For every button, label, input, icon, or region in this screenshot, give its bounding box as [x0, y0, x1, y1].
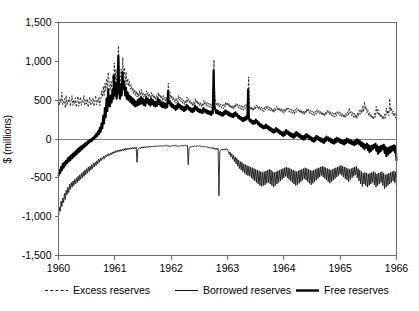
y-tick-label: 500: [34, 94, 52, 106]
x-tick-label: 1962: [159, 262, 183, 274]
chart-legend: Excess reservesBorrowed reservesFree res…: [45, 284, 389, 296]
x-tick-label: 1960: [47, 262, 71, 274]
reserves-line-chart: 1,5001,0005000-500-1,000-1,500 196019611…: [0, 0, 419, 311]
y-tick-label: 1,000: [25, 55, 51, 67]
legend-label-free-reserves: Free reserves: [324, 284, 389, 296]
chart-container: 1,5001,0005000-500-1,000-1,500 196019611…: [0, 0, 419, 311]
x-tick-label: 1966: [385, 262, 409, 274]
x-tick-label: 1965: [328, 262, 352, 274]
x-tick-label: 1964: [272, 262, 296, 274]
x-tick-label: 1961: [103, 262, 127, 274]
y-tick-label: -1,500: [22, 249, 52, 261]
x-tick-label: 1963: [216, 262, 240, 274]
y-tick-label: 0: [46, 133, 52, 145]
y-axis-title: $ (millions): [2, 115, 13, 163]
legend-label-borrowed-reserves: Borrowed reserves: [203, 284, 291, 296]
legend-label-excess-reserves: Excess reserves: [73, 284, 150, 296]
y-tick-label: -500: [30, 171, 51, 183]
y-tick-label: 1,500: [25, 16, 51, 28]
y-tick-label: -1,000: [22, 210, 52, 222]
